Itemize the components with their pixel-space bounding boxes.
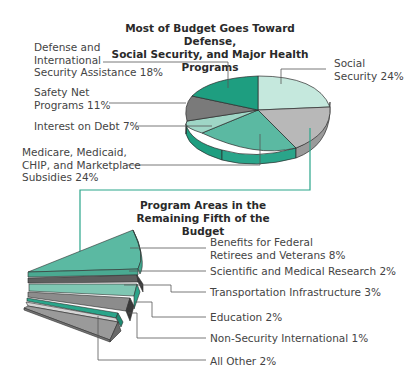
bottom-wedges — [24, 230, 143, 342]
label-research: Scientific and Medical Research 2% — [210, 265, 396, 278]
top-pie — [186, 76, 330, 164]
label-all-other: All Other 2% — [210, 355, 276, 368]
label-non-security-international: Non-Security International 1% — [210, 332, 368, 345]
label-defense: Defense and International Security Assis… — [34, 41, 163, 79]
label-safety-net: Safety Net Programs 11% — [34, 86, 110, 111]
label-social-security: Social Security 24% — [334, 57, 404, 82]
label-benefits: Benefits for Federal Retirees and Vetera… — [210, 236, 346, 261]
label-interest: Interest on Debt 7% — [34, 120, 140, 133]
bottom-chart-title: Program Areas in the Remaining Fifth of … — [118, 199, 288, 238]
label-education: Education 2% — [210, 311, 282, 324]
label-medicare: Medicare, Medicaid, CHIP, and Marketplac… — [22, 146, 141, 184]
label-transportation: Transportation Infrastructure 3% — [210, 286, 381, 299]
